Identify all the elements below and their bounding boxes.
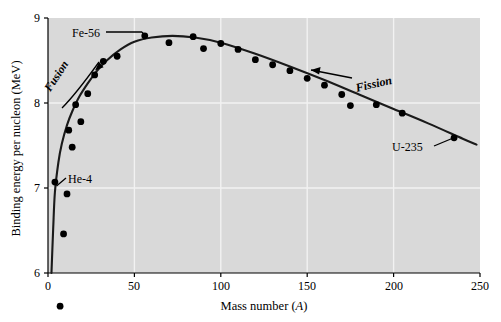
binding-energy-chart: 9 8 7 6 0 50 100 150 200 250 Binding ene… xyxy=(0,0,501,322)
data-point xyxy=(64,191,71,198)
data-point xyxy=(347,102,354,109)
fe-56-label: Fe-56 xyxy=(72,26,100,41)
x-tick-label-100: 100 xyxy=(206,279,236,294)
data-point xyxy=(65,127,72,134)
x-tick-label-0: 0 xyxy=(33,279,63,294)
x-tick-label-50: 50 xyxy=(119,279,149,294)
data-point xyxy=(200,45,207,52)
y-tick-label-9: 9 xyxy=(14,11,40,26)
x-axis-title-text: Mass number ( xyxy=(221,299,296,313)
x-tick-label-200: 200 xyxy=(379,279,409,294)
x-axis-title-tail: ) xyxy=(303,299,307,313)
data-point xyxy=(77,118,84,125)
chart-canvas xyxy=(0,0,501,322)
data-point xyxy=(287,67,294,74)
data-point xyxy=(252,56,259,63)
data-point xyxy=(166,39,173,46)
data-point xyxy=(217,40,224,47)
data-point xyxy=(114,53,121,60)
data-point xyxy=(60,231,67,238)
y-axis-title: Binding energy per nucleon (MeV) xyxy=(9,29,24,269)
data-point xyxy=(321,82,328,89)
data-point xyxy=(269,61,276,68)
he-4-label: He-4 xyxy=(68,172,92,187)
data-point xyxy=(52,179,59,186)
data-point xyxy=(72,101,79,108)
x-tick-label-150: 150 xyxy=(292,279,322,294)
data-point xyxy=(91,72,98,79)
u-235-label: U-235 xyxy=(392,140,423,155)
data-point xyxy=(451,134,458,141)
data-point xyxy=(338,91,345,98)
data-point xyxy=(399,110,406,117)
data-point xyxy=(69,144,76,151)
data-point xyxy=(190,33,197,40)
data-point xyxy=(100,58,107,65)
x-axis-title: Mass number (A) xyxy=(48,299,480,314)
data-point xyxy=(235,46,242,53)
data-point xyxy=(373,101,380,108)
data-point xyxy=(84,90,91,97)
data-point xyxy=(304,75,311,82)
x-tick-label-250: 250 xyxy=(465,279,495,294)
